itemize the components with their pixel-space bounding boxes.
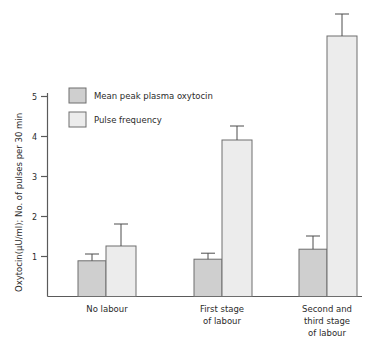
errorbar-pulse-first-stage (230, 126, 244, 140)
y-tick-label-5: 5 (32, 93, 37, 102)
legend-swatch-pulse-frequency (69, 112, 86, 127)
bar-group-second-third-stage (299, 14, 357, 297)
errorbar-oxytocin-first-stage (201, 253, 215, 259)
category-label-first-stage-line1: First stage (200, 304, 244, 314)
y-axis-title: Oxytocin(µU/ml); No. of pulses per 30 mi… (14, 113, 24, 292)
errorbar-pulse-no-labour (114, 224, 128, 246)
x-axis-category-labels: No labour First stage of labour Second a… (86, 304, 352, 338)
chart-svg: 5 4 3 2 1 Oxytocin(µU/ml); No. of pulses… (0, 0, 365, 351)
category-label-second-third-stage-line1: Second and (302, 304, 352, 314)
category-label-first-stage-line2: of labour (203, 316, 241, 326)
y-axis-ticks (41, 97, 48, 257)
bar-oxytocin-no-labour (78, 261, 106, 297)
bar-pulse-no-labour (106, 246, 136, 297)
errorbar-oxytocin-no-labour (85, 254, 99, 261)
bar-pulse-second-third-stage (327, 36, 357, 297)
y-tick-label-3: 3 (32, 173, 37, 182)
y-tick-label-2: 2 (32, 213, 37, 222)
legend-item-pulse-frequency: Pulse frequency (69, 112, 162, 127)
legend-item-mean-peak-plasma-oxytocin: Mean peak plasma oxytocin (69, 88, 213, 103)
errorbar-oxytocin-second-third-stage (306, 236, 320, 249)
bar-pulse-first-stage (222, 140, 252, 297)
category-label-no-labour: No labour (86, 304, 128, 314)
bar-oxytocin-first-stage (194, 259, 222, 296)
oxytocin-bar-chart: 5 4 3 2 1 Oxytocin(µU/ml); No. of pulses… (0, 0, 365, 351)
bar-group-no-labour (78, 224, 136, 297)
y-tick-label-4: 4 (32, 133, 37, 142)
bar-oxytocin-second-third-stage (299, 249, 327, 296)
bar-group-first-stage (194, 126, 252, 297)
chart-legend: Mean peak plasma oxytocin Pulse frequenc… (69, 88, 213, 127)
category-label-second-third-stage-line2: third stage (304, 316, 350, 326)
legend-label-pulse-frequency: Pulse frequency (94, 115, 162, 125)
legend-swatch-mean-peak-plasma-oxytocin (69, 88, 86, 103)
category-label-second-third-stage-line3: of labour (308, 328, 346, 338)
y-axis-tick-labels: 5 4 3 2 1 (32, 93, 37, 262)
errorbar-pulse-second-third-stage (335, 14, 349, 36)
y-tick-label-1: 1 (32, 253, 37, 262)
legend-label-mean-peak-plasma-oxytocin: Mean peak plasma oxytocin (94, 91, 213, 101)
